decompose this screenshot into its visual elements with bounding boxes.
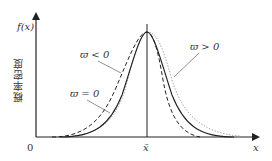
curve-label-skew-positive: ϖ > 0 — [190, 41, 220, 52]
leader-skew-negative — [98, 61, 121, 73]
density-diagram: f(x) 概率密度 ϖ < 0 ϖ = 0 ϖ > 0 0 x̄ x — [0, 0, 272, 161]
mean-label: x̄ — [143, 142, 149, 153]
curve-label-skew-zero: ϖ = 0 — [70, 88, 100, 99]
leader-skew-positive — [174, 53, 199, 77]
y-axis-title: 概率密度 — [14, 58, 25, 103]
x-axis-label: x — [253, 142, 259, 153]
y-axis-label: f(x) — [16, 21, 34, 32]
origin-label: 0 — [27, 142, 33, 153]
curve-skew-negative — [52, 32, 200, 137]
curve-label-skew-negative: ϖ < 0 — [80, 49, 110, 60]
